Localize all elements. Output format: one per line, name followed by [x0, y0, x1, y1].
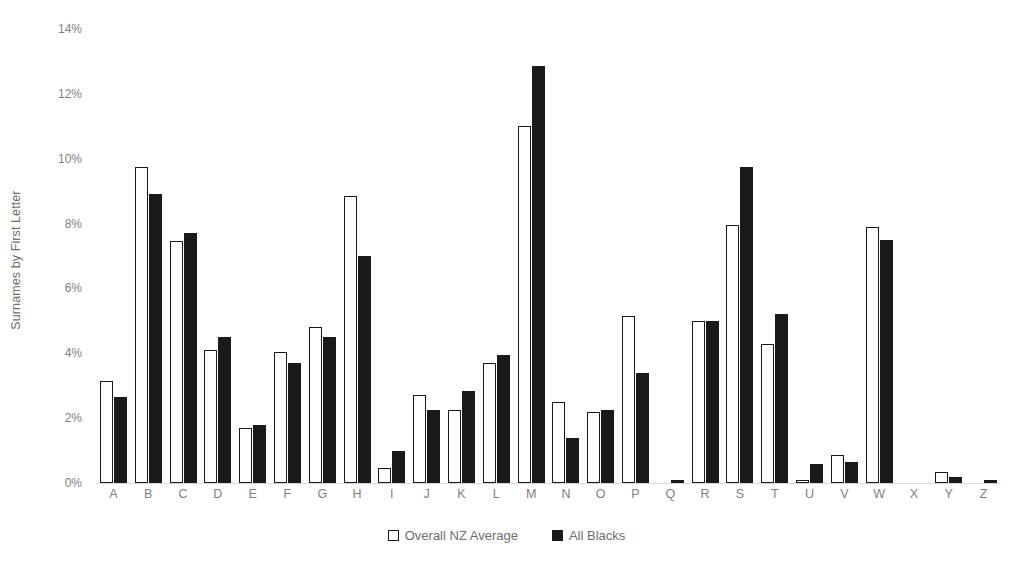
bar-all-blacks-s[interactable]	[740, 167, 753, 483]
bar-overall-nz-average-c[interactable]	[170, 241, 183, 483]
bar-overall-nz-average-v[interactable]	[831, 455, 844, 483]
bar-all-blacks-g[interactable]	[323, 337, 336, 483]
x-axis-tick-j: J	[410, 487, 444, 501]
bar-all-blacks-b[interactable]	[149, 194, 162, 483]
x-axis-tick-e: E	[236, 487, 270, 501]
bar-overall-nz-average-k[interactable]	[448, 410, 461, 483]
bar-all-blacks-m[interactable]	[532, 66, 545, 483]
legend-item-all-blacks[interactable]: All Blacks	[552, 528, 625, 543]
y-axis-tick: 14%	[58, 22, 82, 36]
bar-overall-nz-average-h[interactable]	[344, 196, 357, 483]
bar-all-blacks-k[interactable]	[462, 391, 475, 483]
bar-overall-nz-average-m[interactable]	[518, 126, 531, 483]
bar-overall-nz-average-e[interactable]	[239, 428, 252, 483]
bar-group-z	[970, 29, 997, 483]
bar-overall-nz-average-g[interactable]	[309, 327, 322, 483]
bar-group-h	[344, 29, 371, 483]
bar-all-blacks-e[interactable]	[253, 425, 266, 483]
plot-area	[96, 29, 1001, 483]
bar-group-q	[657, 29, 684, 483]
bar-overall-nz-average-u[interactable]	[796, 480, 809, 483]
bar-all-blacks-f[interactable]	[288, 363, 301, 483]
x-axis-tick-s: S	[723, 487, 757, 501]
x-axis-tick-i: I	[375, 487, 409, 501]
bar-overall-nz-average-t[interactable]	[761, 344, 774, 483]
bar-all-blacks-a[interactable]	[114, 397, 127, 483]
bar-group-c	[170, 29, 197, 483]
x-axis-tick-y: Y	[932, 487, 966, 501]
bar-group-n	[552, 29, 579, 483]
bar-overall-nz-average-a[interactable]	[100, 381, 113, 483]
bar-all-blacks-o[interactable]	[601, 410, 614, 483]
bar-all-blacks-z[interactable]	[984, 480, 997, 483]
bar-group-g	[309, 29, 336, 483]
bar-all-blacks-l[interactable]	[497, 355, 510, 483]
y-axis-tick: 4%	[65, 346, 82, 360]
bar-all-blacks-y[interactable]	[949, 477, 962, 483]
x-axis-baseline	[96, 483, 1001, 484]
y-axis-tick: 2%	[65, 411, 82, 425]
legend-swatch-icon	[552, 530, 563, 541]
bar-group-v	[831, 29, 858, 483]
x-axis-tick-h: H	[340, 487, 374, 501]
x-axis-tick-u: U	[793, 487, 827, 501]
bar-group-s	[726, 29, 753, 483]
bar-group-o	[587, 29, 614, 483]
bar-group-l	[483, 29, 510, 483]
bar-overall-nz-average-o[interactable]	[587, 412, 600, 483]
x-axis-tick-b: B	[131, 487, 165, 501]
bar-all-blacks-v[interactable]	[845, 462, 858, 483]
x-axis-tick-l: L	[479, 487, 513, 501]
bar-group-j	[413, 29, 440, 483]
bar-overall-nz-average-n[interactable]	[552, 402, 565, 483]
bar-group-a	[100, 29, 127, 483]
x-axis-tick-v: V	[827, 487, 861, 501]
bar-group-f	[274, 29, 301, 483]
bar-overall-nz-average-f[interactable]	[274, 352, 287, 483]
bar-all-blacks-h[interactable]	[358, 256, 371, 483]
bar-overall-nz-average-j[interactable]	[413, 395, 426, 483]
bar-all-blacks-n[interactable]	[566, 438, 579, 483]
bar-all-blacks-c[interactable]	[184, 233, 197, 483]
bar-overall-nz-average-y[interactable]	[935, 472, 948, 483]
bar-overall-nz-average-w[interactable]	[866, 227, 879, 483]
bar-overall-nz-average-i[interactable]	[378, 468, 391, 483]
bar-overall-nz-average-p[interactable]	[622, 316, 635, 483]
bar-overall-nz-average-l[interactable]	[483, 363, 496, 483]
bar-all-blacks-d[interactable]	[218, 337, 231, 483]
legend-item-overall-nz-average[interactable]: Overall NZ Average	[388, 528, 518, 543]
bar-chart: Surnames by First Letter 14%12%10%8%6%4%…	[0, 0, 1013, 580]
bar-group-k	[448, 29, 475, 483]
y-axis-tick: 8%	[65, 217, 82, 231]
x-axis-tick-w: W	[862, 487, 896, 501]
bar-all-blacks-w[interactable]	[880, 240, 893, 483]
x-axis-tick-z: Z	[967, 487, 1001, 501]
y-axis-title-label: Surnames by First Letter	[9, 190, 23, 329]
y-axis-tick: 10%	[58, 152, 82, 166]
bar-overall-nz-average-s[interactable]	[726, 225, 739, 483]
bar-overall-nz-average-b[interactable]	[135, 167, 148, 483]
y-axis-tick-labels: 14%12%10%8%6%4%2%0%	[40, 0, 90, 512]
x-axis-tick-t: T	[758, 487, 792, 501]
bar-all-blacks-t[interactable]	[775, 314, 788, 483]
x-axis-tick-k: K	[444, 487, 478, 501]
y-axis-tick: 0%	[65, 476, 82, 490]
x-axis-tick-m: M	[514, 487, 548, 501]
bar-group-b	[135, 29, 162, 483]
y-axis-tick: 12%	[58, 87, 82, 101]
x-axis-tick-q: Q	[653, 487, 687, 501]
bar-all-blacks-i[interactable]	[392, 451, 405, 483]
bar-group-p	[622, 29, 649, 483]
bar-all-blacks-p[interactable]	[636, 373, 649, 483]
bar-all-blacks-r[interactable]	[706, 321, 719, 483]
x-axis-tick-c: C	[166, 487, 200, 501]
bar-all-blacks-q[interactable]	[671, 480, 684, 483]
bar-group-x	[900, 29, 927, 483]
bar-all-blacks-j[interactable]	[427, 410, 440, 483]
bar-group-d	[204, 29, 231, 483]
x-axis-tick-n: N	[549, 487, 583, 501]
bar-overall-nz-average-r[interactable]	[692, 321, 705, 483]
bar-all-blacks-u[interactable]	[810, 464, 823, 483]
bar-overall-nz-average-d[interactable]	[204, 350, 217, 483]
x-axis-tick-x: X	[897, 487, 931, 501]
